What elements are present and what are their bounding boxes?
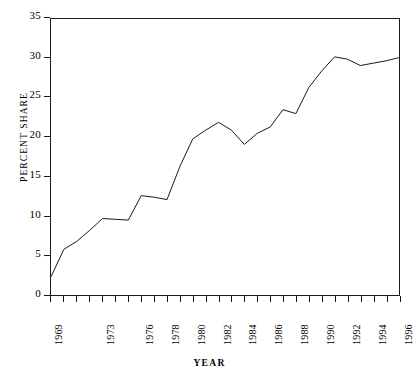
x-tick-label-1994: 1994 — [378, 324, 388, 345]
x-tick-mark-1979 — [180, 296, 181, 302]
x-tick-mark-1994 — [374, 296, 375, 302]
x-tick-label-1984: 1984 — [248, 324, 258, 345]
x-tick-mark-1969 — [50, 296, 51, 302]
x-tick-mark-1989 — [309, 296, 310, 302]
x-tick-mark-1983 — [231, 296, 232, 302]
x-tick-label-1973: 1973 — [106, 324, 116, 345]
y-tick-label: 30 — [30, 50, 41, 61]
y-tick-label: 35 — [30, 10, 41, 21]
x-tick-mark-1990 — [322, 296, 323, 302]
x-tick-mark-1974 — [115, 296, 116, 302]
x-tick-mark-1976 — [141, 296, 142, 302]
x-tick-label-1980: 1980 — [197, 324, 207, 345]
y-tick-label: 15 — [30, 169, 41, 180]
x-tick-mark-1972 — [89, 296, 90, 302]
y-tick-label: 5 — [35, 248, 41, 259]
x-axis-labels: 1969197319761978198019821984198619881990… — [50, 305, 400, 349]
y-tick-label: 10 — [30, 209, 41, 220]
x-tick-label-1982: 1982 — [223, 324, 233, 345]
x-tick-label-1986: 1986 — [274, 324, 284, 345]
x-tick-label-1992: 1992 — [352, 324, 362, 345]
x-tick-mark-1985 — [257, 296, 258, 302]
x-tick-mark-1993 — [361, 296, 362, 302]
x-tick-mark-1982 — [219, 296, 220, 302]
x-tick-mark-1991 — [335, 296, 336, 302]
x-tick-mark-1975 — [128, 296, 129, 302]
x-tick-mark-1973 — [102, 296, 103, 302]
x-tick-label-1988: 1988 — [300, 324, 310, 345]
x-axis-title: YEAR — [0, 358, 419, 368]
x-tick-mark-1970 — [63, 296, 64, 302]
x-tick-mark-1984 — [244, 296, 245, 302]
y-tick-label: 25 — [30, 89, 41, 100]
x-tick-mark-1978 — [167, 296, 168, 302]
x-tick-mark-1988 — [296, 296, 297, 302]
y-tick-label: 0 — [35, 288, 41, 299]
plot-area — [50, 18, 400, 296]
x-tick-mark-1981 — [206, 296, 207, 302]
x-tick-label-1969: 1969 — [54, 324, 64, 345]
x-tick-label-1978: 1978 — [171, 324, 181, 345]
line-chart: 05101520253035 PERCENT SHARE 19691973197… — [0, 0, 419, 390]
x-tick-mark-1971 — [76, 296, 77, 302]
x-tick-mark-1987 — [283, 296, 284, 302]
x-tick-mark-1996 — [400, 296, 401, 302]
x-tick-label-1990: 1990 — [326, 324, 336, 345]
y-tick-label: 20 — [30, 129, 41, 140]
x-tick-label-1976: 1976 — [145, 324, 155, 345]
series-line — [51, 19, 399, 295]
y-axis-title: PERCENT SHARE — [19, 67, 29, 207]
x-tick-mark-1986 — [270, 296, 271, 302]
x-tick-label-1996: 1996 — [404, 324, 414, 345]
x-tick-mark-1992 — [348, 296, 349, 302]
x-tick-mark-1995 — [387, 296, 388, 302]
x-tick-mark-1977 — [154, 296, 155, 302]
x-tick-mark-1980 — [193, 296, 194, 302]
